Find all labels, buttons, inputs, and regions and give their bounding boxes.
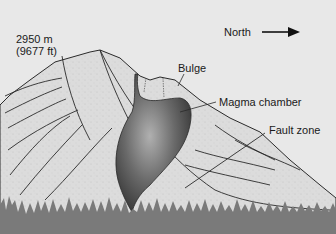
bulge-label: Bulge — [178, 62, 206, 74]
volcano-cross-section-diagram: 2950 m (9677 ft) North Bulge Magma chamb… — [0, 0, 336, 234]
elevation-feet: (9677 ft) — [16, 45, 57, 57]
elevation-label: 2950 m (9677 ft) — [16, 33, 57, 57]
fault-zone-label: Fault zone — [269, 124, 320, 136]
elevation-meters: 2950 m — [16, 33, 57, 45]
magma-chamber-label: Magma chamber — [219, 96, 302, 108]
north-arrow-icon — [262, 27, 300, 37]
north-label: North — [224, 26, 251, 38]
